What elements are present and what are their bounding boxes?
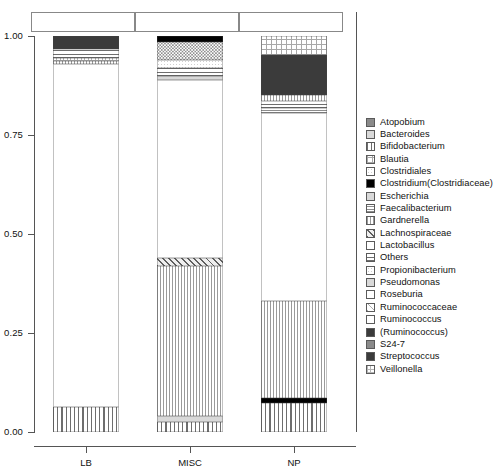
legend-label: Blautia <box>380 155 409 164</box>
bar-segment[interactable] <box>261 36 327 55</box>
y-tick-label: 0.25 <box>0 327 23 338</box>
x-tick-label-np: NP <box>264 457 324 468</box>
legend-label: Propionibacterium <box>380 266 456 275</box>
legend-item[interactable]: Pseudomonas <box>366 276 496 288</box>
legend-item[interactable]: Blautia <box>366 153 496 165</box>
legend-item[interactable]: Ruminococcus <box>366 314 496 326</box>
x-tick-mark <box>190 446 191 453</box>
bar-segment[interactable] <box>157 60 223 69</box>
bar-segment[interactable] <box>157 80 223 257</box>
bar-segment[interactable] <box>157 42 223 60</box>
y-tick-mark <box>28 432 35 433</box>
legend-item[interactable]: Bacteroides <box>366 128 496 140</box>
y-tick-label: 0.75 <box>0 129 23 140</box>
y-tick-mark <box>28 36 35 37</box>
legend-item[interactable]: Clostridiales <box>366 165 496 177</box>
legend-label: Lachnospiraceae <box>380 229 452 238</box>
legend: AtopobiumBacteroidesBifidobacteriumBlaut… <box>366 116 496 375</box>
legend-swatch-icon <box>366 216 375 225</box>
legend-label: Ruminococcaceae <box>380 303 457 312</box>
bar-segment[interactable] <box>157 258 223 267</box>
legend-label: Escherichia <box>380 192 429 201</box>
legend-swatch-icon <box>366 266 375 275</box>
legend-item[interactable]: Veillonella <box>366 363 496 375</box>
legend-swatch-icon <box>366 278 375 287</box>
bar-misc[interactable] <box>157 36 223 432</box>
x-tick-label-misc: MISC <box>160 457 220 468</box>
bar-lb[interactable] <box>53 36 119 432</box>
legend-label: Others <box>380 253 408 262</box>
legend-item[interactable]: Streptococcus <box>366 351 496 363</box>
plot-frame-right <box>356 12 357 432</box>
legend-label: Ruminococcus <box>380 315 442 324</box>
legend-label: S24-7 <box>380 340 405 349</box>
legend-swatch-icon <box>366 142 375 151</box>
legend-swatch-icon <box>366 229 375 238</box>
chart-canvas: 1.000.750.500.250.00 LBMISCNP AtopobiumB… <box>0 0 498 473</box>
legend-label: Bifidobacterium <box>380 142 445 151</box>
legend-swatch-icon <box>366 118 375 127</box>
strip-panel-misc <box>135 12 239 32</box>
legend-label: Bacteroides <box>380 130 430 139</box>
bar-segment[interactable] <box>261 301 327 398</box>
bar-segment[interactable] <box>157 422 223 432</box>
y-tick-mark <box>28 234 35 235</box>
legend-swatch-icon <box>366 130 375 139</box>
bar-segment[interactable] <box>53 36 119 49</box>
legend-label: Clostridium(Clostridiaceae) <box>380 179 493 188</box>
legend-swatch-icon <box>366 241 375 250</box>
y-tick-label: 0.50 <box>0 228 23 239</box>
legend-item[interactable]: Escherichia <box>366 190 496 202</box>
bar-np[interactable] <box>261 36 327 432</box>
legend-label: Atopobium <box>380 118 425 127</box>
bar-segment[interactable] <box>157 266 223 416</box>
x-tick-mark <box>86 446 87 453</box>
legend-swatch-icon <box>366 328 375 337</box>
legend-swatch-icon <box>366 155 375 164</box>
legend-item[interactable]: Atopobium <box>366 116 496 128</box>
y-tick-label: 1.00 <box>0 30 23 41</box>
legend-swatch-icon <box>366 167 375 176</box>
legend-swatch-icon <box>366 315 375 324</box>
legend-label: Roseburia <box>380 290 423 299</box>
legend-swatch-icon <box>366 303 375 312</box>
legend-item[interactable]: Ruminococcaceae <box>366 301 496 313</box>
legend-label: Pseudomonas <box>380 278 440 287</box>
bar-segment[interactable] <box>53 49 119 58</box>
legend-item[interactable]: Gardnerella <box>366 215 496 227</box>
strip-panel-np <box>239 12 343 32</box>
bar-segment[interactable] <box>261 403 327 432</box>
legend-swatch-icon <box>366 340 375 349</box>
legend-swatch-icon <box>366 204 375 213</box>
legend-label: Faecalibacterium <box>380 204 452 213</box>
strip-panel-lb <box>31 12 135 32</box>
bar-segment[interactable] <box>53 64 119 407</box>
legend-swatch-icon <box>366 179 375 188</box>
legend-swatch-icon <box>366 253 375 262</box>
legend-swatch-icon <box>366 290 375 299</box>
bar-segment[interactable] <box>157 68 223 75</box>
legend-swatch-icon <box>366 192 375 201</box>
bar-segment[interactable] <box>53 407 119 432</box>
legend-item[interactable]: Bifidobacterium <box>366 141 496 153</box>
bar-segment[interactable] <box>261 55 327 95</box>
legend-item[interactable]: Faecalibacterium <box>366 202 496 214</box>
legend-swatch-icon <box>366 365 375 374</box>
y-tick-mark <box>28 333 35 334</box>
legend-label: Gardnerella <box>380 216 429 225</box>
legend-item[interactable]: Roseburia <box>366 289 496 301</box>
legend-item[interactable]: (Ruminococcus) <box>366 326 496 338</box>
legend-label: (Ruminococcus) <box>380 328 448 337</box>
legend-item[interactable]: Lachnospiraceae <box>366 227 496 239</box>
legend-label: Clostridiales <box>380 167 431 176</box>
legend-label: Lactobacillus <box>380 241 434 250</box>
legend-item[interactable]: Propionibacterium <box>366 264 496 276</box>
legend-item[interactable]: Others <box>366 252 496 264</box>
bar-segment[interactable] <box>261 101 327 108</box>
bar-segment[interactable] <box>261 113 327 301</box>
legend-item[interactable]: Lactobacillus <box>366 239 496 251</box>
legend-label: Veillonella <box>380 365 422 374</box>
legend-item[interactable]: Clostridium(Clostridiaceae) <box>366 178 496 190</box>
y-tick-mark <box>28 135 35 136</box>
legend-item[interactable]: S24-7 <box>366 338 496 350</box>
